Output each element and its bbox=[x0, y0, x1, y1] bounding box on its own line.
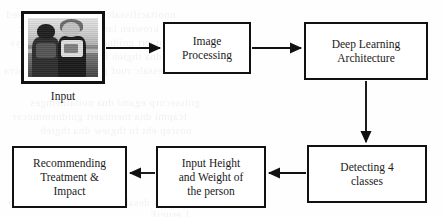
node-detecting-4-classes[interactable]: Detecting 4 classes bbox=[307, 145, 427, 203]
node-image-processing-label: Image Processing bbox=[178, 34, 236, 62]
input-image-caption: Input bbox=[21, 90, 105, 102]
node-deep-learning-architecture[interactable]: Deep Learning Architecture bbox=[304, 22, 428, 80]
node-recommending-treatment[interactable]: Recommending Treatment & Impact bbox=[12, 146, 127, 208]
node-deep-learning-architecture-label: Deep Learning Architecture bbox=[328, 37, 405, 65]
bleed-artifact: 1 erugiF bbox=[150, 208, 190, 217]
photo-of-two-people bbox=[28, 18, 98, 77]
node-input-height-weight[interactable]: Input Height and Weight of the person bbox=[156, 146, 266, 208]
node-input-height-weight-label: Input Height and Weight of the person bbox=[175, 156, 248, 198]
bleed-artifact: nosrep eht fo thgiew dna thgieh bbox=[40, 124, 191, 136]
node-recommending-treatment-label: Recommending Treatment & Impact bbox=[29, 156, 110, 198]
bleed-artifact: tcapmi dna tnemtaert gnidnemmocer bbox=[12, 110, 187, 122]
node-image-processing[interactable]: Image Processing bbox=[163, 22, 251, 74]
node-detecting-4-classes-label: Detecting 4 classes bbox=[336, 160, 397, 188]
flowchart-canvas: nnoitacifissalc egami gninrael peed erut… bbox=[0, 0, 444, 217]
input-image-thumbnail bbox=[21, 11, 105, 84]
